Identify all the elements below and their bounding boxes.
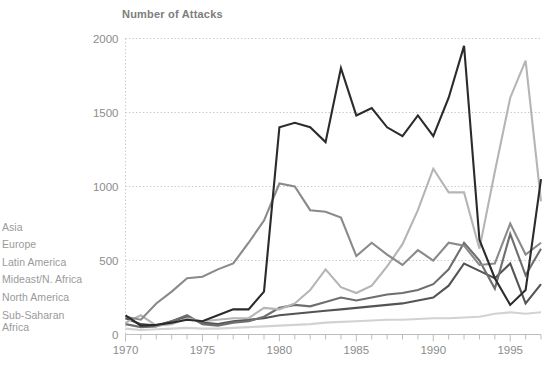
- legend-item-europe: Europe: [0, 236, 110, 254]
- chart-title: Number of Attacks: [122, 8, 223, 20]
- legend-item-north-america: North America: [0, 288, 110, 306]
- y-tick-label: 2000: [93, 33, 119, 45]
- gridlines: [126, 39, 542, 335]
- data-series-layer: [126, 46, 542, 330]
- x-tick-label: 1990: [420, 344, 446, 356]
- legend-item-mideast-n-africa: Mideast/N. Africa: [0, 271, 110, 289]
- legend-item-latin-america: Latin America: [0, 253, 110, 271]
- series-line-mideast-n-africa: [126, 46, 542, 326]
- x-tick-label: 1970: [113, 344, 139, 356]
- x-axis-tick-labels: 197019751980198519901995: [113, 344, 523, 356]
- x-tick-label: 1975: [190, 344, 216, 356]
- x-tick-label: 1985: [344, 344, 370, 356]
- y-tick-label: 0: [112, 329, 118, 341]
- chart-legend: Asia Europe Latin America Mideast/N. Afr…: [0, 218, 110, 336]
- x-axis-ticks: [126, 335, 542, 342]
- y-tick-label: 1000: [93, 181, 119, 193]
- y-tick-label: 1500: [93, 107, 119, 119]
- legend-item-sub-saharan-africa: Sub-Saharan Africa: [0, 306, 110, 336]
- x-tick-label: 1980: [267, 344, 293, 356]
- x-tick-label: 1995: [497, 344, 523, 356]
- attacks-line-chart: Number of Attacks Asia Europe Latin Amer…: [0, 0, 550, 375]
- legend-item-asia: Asia: [0, 218, 110, 236]
